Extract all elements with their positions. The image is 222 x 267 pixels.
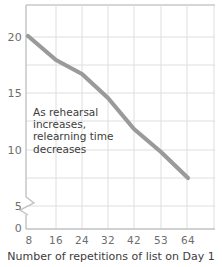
x-axis-title: Number of repetitions of list on Day 1: [0, 250, 222, 263]
annotation-line-2: increases,: [33, 118, 115, 130]
y-tick-label-10: 10: [2, 144, 22, 157]
x-tick-label-8: 8: [17, 234, 41, 246]
y-tick-label-15: 15: [2, 87, 22, 100]
x-tick-label-16: 16: [44, 234, 68, 246]
annotation-line-4: decreases: [33, 143, 115, 155]
annotation-line-1: As rehearsal: [33, 106, 115, 118]
x-tick-label-42: 42: [122, 234, 146, 246]
chart-container: 20 15 10 5 0 8 16 24 32 42 53 64 As rehe…: [0, 0, 222, 267]
x-tick-label-64: 64: [176, 234, 200, 246]
y-tick-label-20: 20: [2, 31, 22, 44]
x-tick-label-53: 53: [149, 234, 173, 246]
y-tick-label-5: 5: [2, 200, 22, 213]
annotation-line-3: relearning time: [33, 130, 115, 142]
chart-annotation: As rehearsal increases, relearning time …: [33, 106, 115, 155]
x-tick-label-24: 24: [70, 234, 94, 246]
x-tick-label-32: 32: [96, 234, 120, 246]
